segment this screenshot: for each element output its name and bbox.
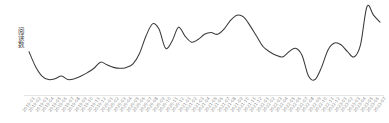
x-axis-tick-labels: 2019-012019-022019-032019-042019-052019-… (0, 96, 389, 123)
line-chart-panel: 阅读数 2019-012019-022019-032019-042019-052… (0, 0, 389, 123)
series-line-reading-count (29, 5, 380, 80)
